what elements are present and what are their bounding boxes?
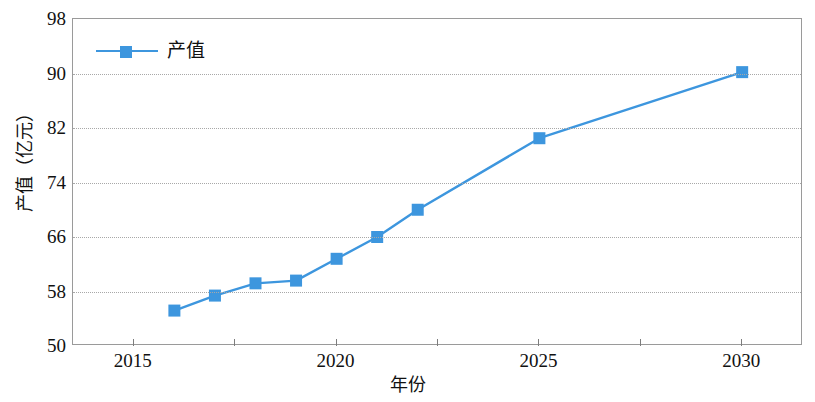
x-axis-tick-label: 2030 <box>701 350 781 372</box>
x-axis-tick-mark <box>741 339 742 346</box>
x-axis-title: 年份 <box>0 375 815 395</box>
x-axis-ticks: 2015202020252030 <box>0 0 815 402</box>
legend: 产值 <box>96 41 205 60</box>
x-axis-tick-mark <box>538 339 539 346</box>
x-axis-tick-label: 2020 <box>296 350 376 372</box>
legend-square-icon <box>120 46 132 58</box>
line-chart: 98908274665850 产值（亿元） 2015202020252030 年… <box>0 0 815 402</box>
x-axis-tick-label: 2025 <box>498 350 578 372</box>
x-axis-tick-mark <box>336 339 337 346</box>
legend-label: 产值 <box>167 41 205 60</box>
x-axis-tick-label: 2015 <box>93 350 173 372</box>
x-axis-tick-mark <box>640 339 641 346</box>
x-axis-tick-mark <box>133 339 134 346</box>
legend-marker-icon <box>96 44 158 58</box>
x-axis-tick-mark <box>437 339 438 346</box>
x-axis-tick-mark <box>234 339 235 346</box>
